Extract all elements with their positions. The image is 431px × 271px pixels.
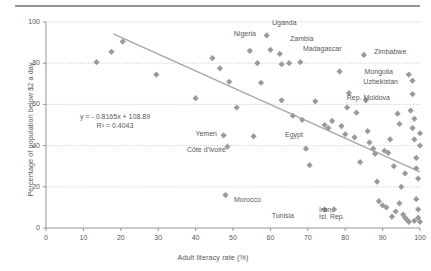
data-point-42 bbox=[376, 198, 382, 204]
data-point-mongolia bbox=[406, 71, 412, 77]
data-point-41 bbox=[374, 179, 380, 185]
point-label-zambia: Zambia bbox=[290, 35, 313, 43]
data-point-82 bbox=[297, 59, 303, 65]
data-point-48 bbox=[391, 163, 397, 169]
data-point-egypt bbox=[250, 133, 256, 139]
x-tick-label-70: 70 bbox=[296, 234, 320, 241]
x-tick-label-10: 10 bbox=[71, 234, 95, 241]
data-point-6 bbox=[217, 65, 223, 71]
data-point-19 bbox=[279, 61, 285, 67]
data-point-3 bbox=[153, 71, 159, 77]
data-point-74 bbox=[402, 170, 408, 176]
data-point-24 bbox=[303, 146, 309, 152]
data-point-73 bbox=[396, 200, 402, 206]
point-label-morocco: Morocco bbox=[234, 196, 261, 204]
y-tick-label-60: 60 bbox=[20, 100, 40, 107]
point-label-rep-moldova: Rep. Moldova bbox=[290, 94, 390, 102]
x-tick-label-90: 90 bbox=[371, 234, 395, 241]
x-tick-label-80: 80 bbox=[333, 234, 357, 241]
y-tick-label-20: 20 bbox=[20, 183, 40, 190]
data-point-65 bbox=[413, 196, 419, 202]
r-squared-annotation: R² = 0.4043 bbox=[62, 122, 168, 129]
data-point-zambia bbox=[267, 47, 273, 53]
point-label-tunisia: Tunisia bbox=[194, 212, 294, 220]
data-point-25 bbox=[307, 162, 313, 168]
data-point-madagascar bbox=[277, 51, 283, 57]
x-tick-label-20: 20 bbox=[109, 234, 133, 241]
data-point-8 bbox=[234, 104, 240, 110]
data-point-21 bbox=[279, 97, 285, 103]
data-point-79 bbox=[353, 110, 359, 116]
y-tick-label-100: 100 bbox=[20, 18, 40, 25]
data-point-uganda bbox=[264, 32, 270, 38]
data-point-59 bbox=[411, 116, 417, 122]
regression-equation: y = - 0.8165x + 108.89 bbox=[62, 113, 168, 120]
point-label-egypt: Egypt bbox=[285, 131, 303, 139]
data-point-40 bbox=[372, 151, 378, 157]
data-point-38 bbox=[366, 139, 372, 145]
data-point-35 bbox=[357, 159, 363, 165]
point-label-c-te-d-ivoire: Côte d'Ivoire bbox=[126, 146, 226, 154]
data-point-62 bbox=[413, 155, 419, 161]
point-label-zimbabwe: Zimbabwe bbox=[374, 48, 406, 56]
data-point-zimbabwe bbox=[361, 52, 367, 58]
point-label-mongolia: Mongolia bbox=[293, 68, 393, 76]
data-point-75 bbox=[417, 130, 423, 136]
data-point-76 bbox=[417, 143, 423, 149]
x-tick-label-50: 50 bbox=[221, 234, 245, 241]
data-point-14 bbox=[258, 80, 264, 86]
data-point-5 bbox=[209, 55, 215, 61]
point-label-nigeria: Nigeria bbox=[156, 30, 256, 38]
data-point-yemen bbox=[221, 132, 227, 138]
data-point-nigeria bbox=[247, 48, 253, 54]
data-point-61 bbox=[411, 136, 417, 142]
x-tick-label-0: 0 bbox=[34, 234, 58, 241]
y-tick-label-80: 80 bbox=[20, 59, 40, 66]
x-tick-label-30: 30 bbox=[146, 234, 170, 241]
data-point-58 bbox=[408, 107, 414, 113]
data-point-4 bbox=[193, 95, 199, 101]
data-point-47 bbox=[387, 136, 393, 142]
data-point-71 bbox=[389, 214, 395, 220]
point-label-uganda: Uganda bbox=[272, 19, 297, 27]
x-tick-label-60: 60 bbox=[258, 234, 282, 241]
point-label-isl-rep: Isl. Rep. bbox=[319, 213, 345, 221]
data-point-morocco bbox=[222, 192, 228, 198]
data-point-34 bbox=[351, 134, 357, 140]
data-point-rep-moldova bbox=[409, 91, 415, 97]
data-point-7 bbox=[226, 79, 232, 85]
data-point-32 bbox=[338, 123, 344, 129]
data-point-72 bbox=[393, 208, 399, 214]
data-point-20 bbox=[286, 60, 292, 66]
data-point-78 bbox=[344, 104, 350, 110]
point-label-madagascar: Madagascar bbox=[303, 45, 342, 53]
y-tick-label-40: 40 bbox=[20, 142, 40, 149]
data-point-37 bbox=[365, 128, 371, 134]
data-point-60 bbox=[409, 125, 415, 131]
x-tick-label-100: 100 bbox=[408, 234, 431, 241]
data-point-64 bbox=[415, 175, 421, 181]
data-point-29 bbox=[329, 118, 335, 124]
data-point-13 bbox=[254, 60, 260, 66]
data-point-50 bbox=[396, 121, 402, 127]
data-point-1 bbox=[108, 49, 114, 55]
y-tick-label-0: 0 bbox=[20, 224, 40, 231]
data-point-49 bbox=[394, 111, 400, 117]
data-point-0 bbox=[93, 59, 99, 65]
data-point-51 bbox=[398, 184, 404, 190]
x-tick-label-40: 40 bbox=[184, 234, 208, 241]
data-point-39 bbox=[370, 146, 376, 152]
data-point-66 bbox=[415, 206, 421, 212]
x-axis-title: Adult literacy rate (%) bbox=[0, 253, 426, 262]
data-point-uzbekistan bbox=[409, 78, 415, 84]
data-point-33 bbox=[342, 131, 348, 137]
y-axis-title: Percentage of population below $2 a day bbox=[26, 40, 35, 220]
point-label-uzbekistan: Uzbekistan bbox=[298, 78, 398, 86]
point-label-yemen: Yemen bbox=[117, 130, 217, 138]
